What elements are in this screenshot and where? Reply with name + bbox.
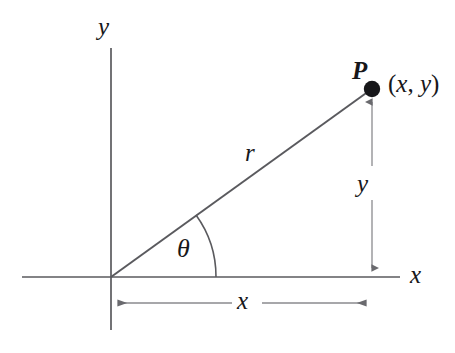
x-axis-label: x [410, 262, 421, 287]
angle-theta-label: θ [177, 236, 190, 262]
vertical-dimension-label: y [357, 171, 368, 196]
coordinate-pair-label: (x, y) [388, 71, 439, 96]
point-p-label: P [352, 58, 367, 83]
coordinate-comma: , [407, 70, 420, 97]
coordinate-x: x [396, 70, 407, 97]
y-axis-label: y [98, 14, 109, 39]
paren-close: ) [431, 70, 439, 97]
radius-ray-line [111, 91, 369, 277]
angle-arc [196, 215, 216, 277]
coordinate-y: y [420, 70, 431, 97]
horizontal-dimension-label: x [232, 288, 253, 313]
radius-label: r [245, 140, 255, 165]
polar-coordinate-figure: y x r θ y x P (x, y) [0, 0, 455, 353]
figure-canvas [0, 0, 455, 353]
